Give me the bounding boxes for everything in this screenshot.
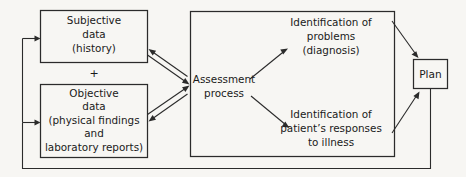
plus-symbol: +	[89, 67, 98, 80]
objective-data-line-5: laboratory reports)	[45, 141, 143, 153]
edge-objective-to-assessment	[148, 86, 190, 122]
edge-subjective-to-assessment	[148, 49, 190, 85]
edge-problems-to-plan	[392, 21, 419, 58]
objective-data-line-1: Objective	[69, 87, 118, 99]
assessment-process-flow-diagram: Subjective data (history) + Objective da…	[0, 0, 466, 177]
figure-canvas: Subjective data (history) + Objective da…	[0, 0, 466, 177]
node-identification-of-problems: Identification of problems (diagnosis)	[290, 16, 372, 56]
objective-data-line-4: and	[84, 127, 104, 139]
node-subjective-data: Subjective data (history)	[41, 11, 148, 63]
responses-line-2: patient’s responses	[280, 122, 382, 134]
node-objective-data: Objective data (physical findings and la…	[41, 85, 148, 158]
assessment-process-line-2: process	[204, 87, 244, 99]
subjective-data-line-2: data	[82, 28, 105, 40]
objective-data-line-3: (physical findings	[48, 114, 139, 126]
edge-responses-to-plan	[392, 92, 420, 134]
subjective-data-line-1: Subjective	[67, 14, 121, 26]
responses-line-3: to illness	[308, 136, 354, 148]
edge-assessment-to-problems	[250, 49, 288, 80]
problems-line-3: (diagnosis)	[302, 44, 359, 56]
problems-line-2: problems	[307, 30, 355, 42]
node-plan: Plan	[414, 60, 448, 89]
node-identification-of-responses: Identification of patient’s responses to…	[280, 108, 382, 148]
subjective-data-line-3: (history)	[72, 42, 116, 54]
problems-line-1: Identification of	[290, 16, 372, 28]
assessment-process-line-1: Assessment	[193, 73, 255, 85]
objective-data-line-2: data	[82, 100, 105, 112]
responses-line-1: Identification of	[290, 108, 372, 120]
plan-label: Plan	[419, 68, 442, 80]
node-assessment-process: Assessment process	[193, 73, 255, 99]
